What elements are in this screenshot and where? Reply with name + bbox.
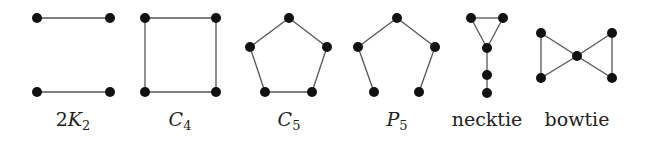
graph-edge xyxy=(250,47,265,92)
graph-label-2k2: 2K2 xyxy=(23,106,123,132)
graph-edge xyxy=(577,33,612,56)
graph-vertex xyxy=(211,87,221,97)
graph-edge xyxy=(487,18,503,48)
graph-vertex xyxy=(322,42,332,52)
graph-edge xyxy=(289,18,327,47)
graph-vertex xyxy=(607,73,617,83)
graph-c4 xyxy=(140,13,221,97)
graph-vertex xyxy=(245,42,255,52)
graph-vertex xyxy=(392,13,402,23)
graph-vertex xyxy=(260,87,270,97)
graph-vertex xyxy=(32,87,42,97)
graph-vertex xyxy=(482,88,492,98)
label-main: bowtie xyxy=(545,108,610,130)
graph-edge xyxy=(419,47,435,92)
label-subscript: 2 xyxy=(82,118,90,133)
graph-vertex xyxy=(105,87,115,97)
graph-edge xyxy=(358,18,397,47)
graph-vertex xyxy=(482,70,492,80)
label-main: necktie xyxy=(452,108,523,130)
graph-vertex xyxy=(211,13,221,23)
graph-2k2 xyxy=(32,13,115,97)
graph-vertex xyxy=(430,42,440,52)
graph-p5 xyxy=(353,13,440,97)
graph-vertex xyxy=(414,87,424,97)
label-subscript: 4 xyxy=(183,118,191,133)
graph-edge xyxy=(471,18,487,48)
graph-label-p5: P5 xyxy=(347,106,447,132)
graph-c5 xyxy=(245,13,332,97)
graph-edge xyxy=(541,56,577,78)
graph-vertex xyxy=(105,13,115,23)
graph-vertex xyxy=(353,42,363,52)
graph-vertex xyxy=(140,87,150,97)
graph-edge xyxy=(577,56,612,78)
graph-edge xyxy=(312,47,327,92)
graph-label-c4: C4 xyxy=(130,106,230,132)
graph-vertex xyxy=(140,13,150,23)
graph-vertex xyxy=(284,13,294,23)
graph-vertex xyxy=(369,87,379,97)
graph-vertex xyxy=(498,13,508,23)
graph-edge xyxy=(541,33,577,56)
label-main: P xyxy=(386,108,399,130)
graph-edge xyxy=(397,18,435,47)
graph-label-c5: C5 xyxy=(239,106,339,132)
graph-vertex xyxy=(536,73,546,83)
graph-bowtie xyxy=(536,28,617,83)
graph-vertex xyxy=(307,87,317,97)
graph-necktie xyxy=(466,13,508,98)
label-main: C xyxy=(169,108,184,130)
graph-vertex xyxy=(32,13,42,23)
graph-vertex xyxy=(482,43,492,53)
graph-vertex xyxy=(572,51,582,61)
graph-label-bowtie: bowtie xyxy=(527,106,627,132)
graph-vertex xyxy=(607,28,617,38)
label-main: C xyxy=(278,108,293,130)
graph-edge xyxy=(358,47,374,92)
label-main: K xyxy=(68,108,82,130)
label-prefix: 2 xyxy=(56,108,68,130)
graph-label-necktie: necktie xyxy=(437,106,537,132)
graph-vertex xyxy=(536,28,546,38)
graph-vertex xyxy=(466,13,476,23)
label-subscript: 5 xyxy=(292,118,300,133)
graph-edge xyxy=(250,18,289,47)
label-subscript: 5 xyxy=(399,118,407,133)
